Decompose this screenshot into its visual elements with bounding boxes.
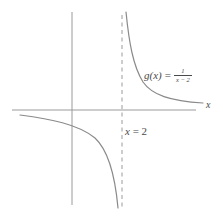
asymptote-variable: x — [125, 125, 130, 137]
function-equation-label: g(x) = 1 x − 2 — [144, 68, 192, 84]
x-axis-label: x — [206, 100, 210, 110]
asymptote-equals: = — [133, 125, 139, 137]
fraction-denominator: x − 2 — [174, 76, 192, 83]
curve-right-branch — [126, 12, 203, 103]
fraction: 1 x − 2 — [174, 68, 192, 84]
asymptote-label: x = 2 — [125, 126, 147, 137]
graph-canvas — [0, 0, 223, 216]
fraction-numerator: 1 — [179, 68, 186, 75]
curve-left-branch — [20, 115, 118, 208]
asymptote-value: 2 — [142, 125, 148, 137]
function-name-label: g(x) — [144, 70, 162, 81]
equals-sign: = — [164, 70, 172, 81]
function-graph-figure: g(x) = 1 x − 2 x = 2 x — [0, 0, 223, 216]
